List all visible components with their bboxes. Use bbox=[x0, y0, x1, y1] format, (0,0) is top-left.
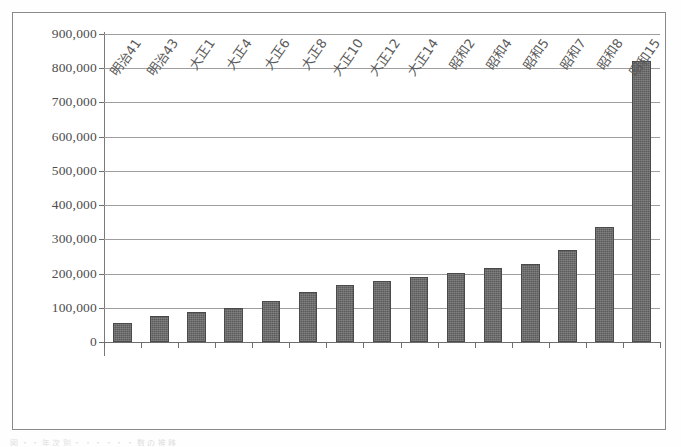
plot-area: 900,000800,000700,000600,000500,000400,0… bbox=[104, 34, 660, 342]
bar[interactable] bbox=[447, 273, 466, 342]
scanned-page: 900,000800,000700,000600,000500,000400,0… bbox=[0, 0, 681, 447]
gridline bbox=[104, 171, 660, 172]
y-tick-mark bbox=[99, 34, 104, 35]
x-axis-label: 昭和4 bbox=[481, 34, 516, 73]
y-tick-mark bbox=[99, 171, 104, 172]
x-tick-mark bbox=[363, 342, 364, 348]
bar[interactable] bbox=[558, 250, 577, 342]
gridline bbox=[104, 274, 660, 275]
bar[interactable] bbox=[595, 227, 614, 342]
y-tick-mark bbox=[99, 205, 104, 206]
x-axis-label: 大正10 bbox=[328, 34, 368, 80]
x-tick-mark bbox=[623, 342, 624, 348]
gridline bbox=[104, 239, 660, 240]
x-tick-mark bbox=[252, 342, 253, 348]
y-axis-label: 600,000 bbox=[52, 129, 97, 145]
bar[interactable] bbox=[150, 316, 169, 342]
x-tick-mark bbox=[401, 342, 402, 348]
gridline bbox=[104, 205, 660, 206]
x-axis-label: 大正4 bbox=[221, 34, 256, 73]
x-axis-label: 大正12 bbox=[365, 34, 405, 80]
y-axis-label: 500,000 bbox=[52, 163, 97, 179]
x-axis-label: 大正6 bbox=[258, 34, 293, 73]
y-tick-mark bbox=[99, 239, 104, 240]
bar[interactable] bbox=[224, 308, 243, 342]
y-axis-label: 200,000 bbox=[52, 266, 97, 282]
x-axis-label: 昭和7 bbox=[555, 34, 590, 73]
x-tick-mark bbox=[178, 342, 179, 348]
x-tick-mark bbox=[512, 342, 513, 348]
x-axis-label: 昭和2 bbox=[443, 34, 478, 73]
x-axis-label: 昭和5 bbox=[518, 34, 553, 73]
x-tick-mark bbox=[549, 342, 550, 348]
x-tick-mark bbox=[438, 342, 439, 348]
y-tick-mark bbox=[99, 68, 104, 69]
x-tick-mark bbox=[586, 342, 587, 348]
bar[interactable] bbox=[262, 301, 281, 342]
y-tick-mark bbox=[99, 308, 104, 309]
bar[interactable] bbox=[632, 61, 651, 342]
y-axis-label: 300,000 bbox=[52, 231, 97, 247]
footer-caption: 図 ・ ・ 年 次 別 ・ ・ ・ ・ ・ ・ 数 の 推 移 bbox=[10, 437, 340, 446]
y-axis-label: 900,000 bbox=[52, 26, 97, 42]
x-axis-label: 明治41 bbox=[105, 34, 145, 80]
y-axis-label: 800,000 bbox=[52, 60, 97, 76]
bar[interactable] bbox=[336, 285, 355, 342]
bar[interactable] bbox=[373, 281, 392, 342]
x-axis-label: 昭和15 bbox=[624, 34, 664, 80]
x-tick-mark bbox=[660, 342, 661, 348]
bar[interactable] bbox=[187, 312, 206, 342]
x-axis-label: 明治43 bbox=[142, 34, 182, 80]
x-axis-label: 大正14 bbox=[402, 34, 442, 80]
y-axis-label: 400,000 bbox=[52, 197, 97, 213]
bar[interactable] bbox=[299, 292, 318, 342]
bar[interactable] bbox=[113, 323, 132, 342]
x-tick-mark bbox=[475, 342, 476, 348]
gridline bbox=[104, 342, 660, 343]
y-axis-label: 100,000 bbox=[52, 300, 97, 316]
x-axis-label: 昭和8 bbox=[592, 34, 627, 73]
gridline bbox=[104, 137, 660, 138]
bar[interactable] bbox=[410, 277, 429, 342]
chart-frame: 900,000800,000700,000600,000500,000400,0… bbox=[12, 12, 666, 430]
y-tick-mark bbox=[99, 137, 104, 138]
x-tick-mark bbox=[141, 342, 142, 348]
x-tick-mark bbox=[215, 342, 216, 348]
y-tick-mark bbox=[99, 274, 104, 275]
x-tick-mark bbox=[289, 342, 290, 348]
y-tick-mark bbox=[99, 102, 104, 103]
bar[interactable] bbox=[484, 268, 503, 342]
y-axis-label: 700,000 bbox=[52, 94, 97, 110]
x-axis-label: 大正1 bbox=[184, 34, 219, 73]
x-axis-label: 大正8 bbox=[295, 34, 330, 73]
bar[interactable] bbox=[521, 264, 540, 342]
gridline bbox=[104, 102, 660, 103]
x-tick-mark bbox=[326, 342, 327, 348]
x-tick-mark bbox=[104, 342, 105, 348]
y-axis-label: 0 bbox=[90, 334, 97, 350]
